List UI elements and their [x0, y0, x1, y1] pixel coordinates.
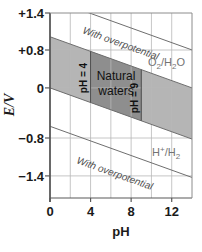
region-label-natural-waters-line1: Natural: [97, 69, 136, 83]
h-h2-part-h: H: [152, 146, 160, 158]
h-h2-part-slash-h: /H: [165, 146, 176, 158]
x-axis-title: pH: [112, 224, 129, 239]
x-tick-label-0: 0: [46, 204, 53, 219]
o2-h2o-part-slash-h: /H: [161, 56, 172, 68]
o2-h2o-part-o2: O: [176, 56, 185, 68]
y-tick-label-1.4: +1.4: [18, 6, 44, 21]
y-tick-label-0: 0: [37, 81, 44, 96]
y-tick-label-neg1.4: −1.4: [18, 169, 44, 184]
x-tick-marks: [50, 198, 172, 202]
x-tick-label-4: 4: [87, 204, 95, 219]
h-h2-sub-2: 2: [176, 152, 181, 161]
y-tick-label-neg0.8: −0.8: [18, 131, 44, 146]
marker-label-ph-4: pH = 4: [78, 62, 89, 93]
x-tick-label-12: 12: [164, 204, 178, 219]
y-tick-label-0.8: +0.8: [18, 43, 44, 58]
y-axis-title: E/V: [2, 92, 17, 117]
marker-label-ph-9: pH = 9: [129, 82, 140, 113]
stability-field-diagram: +1.4 +0.8 0 −0.8 −1.4 0 4 8 12 pH E/V Wi…: [0, 0, 202, 252]
x-tick-label-8: 8: [128, 204, 135, 219]
pourbaix-plot-svg: +1.4 +0.8 0 −0.8 −1.4 0 4 8 12 pH E/V Wi…: [0, 0, 202, 252]
